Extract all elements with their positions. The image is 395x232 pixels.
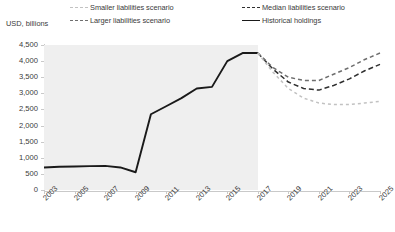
- y-tick-label: 1,500: [4, 138, 38, 146]
- y-tick-label: 2,500: [4, 105, 38, 113]
- y-tick-label: 500: [4, 170, 38, 178]
- plot-area: [44, 45, 380, 190]
- legend-swatch-historical-icon: [242, 20, 260, 21]
- x-tick-mark: [349, 191, 350, 194]
- y-tick-label: 0: [4, 186, 38, 194]
- chart-legend: Smaller liabilities scenario Larger liab…: [70, 2, 388, 30]
- y-tick-label: 1,000: [4, 154, 38, 162]
- x-tick-mark: [380, 191, 381, 194]
- legend-swatch-larger-icon: [70, 20, 88, 21]
- series-line: [258, 53, 380, 80]
- chart-lines: [44, 45, 380, 190]
- x-tick-mark: [319, 191, 320, 194]
- legend-label-smaller: Smaller liabilities scenario: [90, 3, 174, 12]
- x-tick-mark: [44, 191, 45, 194]
- x-tick-mark: [166, 191, 167, 194]
- x-tick-mark: [136, 191, 137, 194]
- x-tick-mark: [197, 191, 198, 194]
- x-tick-mark: [227, 191, 228, 194]
- x-tick-mark: [105, 191, 106, 194]
- y-tick-label: 4,500: [4, 41, 38, 49]
- legend-item-historical-holdings: Historical holdings: [242, 16, 321, 25]
- legend-label-larger: Larger liabilities scenario: [90, 16, 170, 25]
- legend-swatch-smaller-icon: [70, 7, 88, 8]
- x-tick-mark: [75, 191, 76, 194]
- series-line: [258, 53, 380, 90]
- legend-swatch-median-icon: [242, 7, 260, 8]
- y-tick-label: 3,000: [4, 89, 38, 97]
- x-tick-mark: [258, 191, 259, 194]
- legend-label-historical: Historical holdings: [262, 16, 321, 25]
- y-tick-label: 3,500: [4, 73, 38, 81]
- legend-item-larger-liabilities: Larger liabilities scenario: [70, 16, 170, 25]
- legend-item-smaller-liabilities: Smaller liabilities scenario: [70, 3, 174, 12]
- y-axis-title: USD, billions: [6, 19, 48, 28]
- legend-item-median-liabilities: Median liabilities scenario: [242, 3, 345, 12]
- y-tick-label: 4,000: [4, 57, 38, 65]
- y-tick-label: 2,000: [4, 122, 38, 130]
- legend-label-median: Median liabilities scenario: [262, 3, 345, 12]
- series-line: [258, 53, 380, 105]
- series-line: [44, 53, 258, 172]
- x-tick-mark: [288, 191, 289, 194]
